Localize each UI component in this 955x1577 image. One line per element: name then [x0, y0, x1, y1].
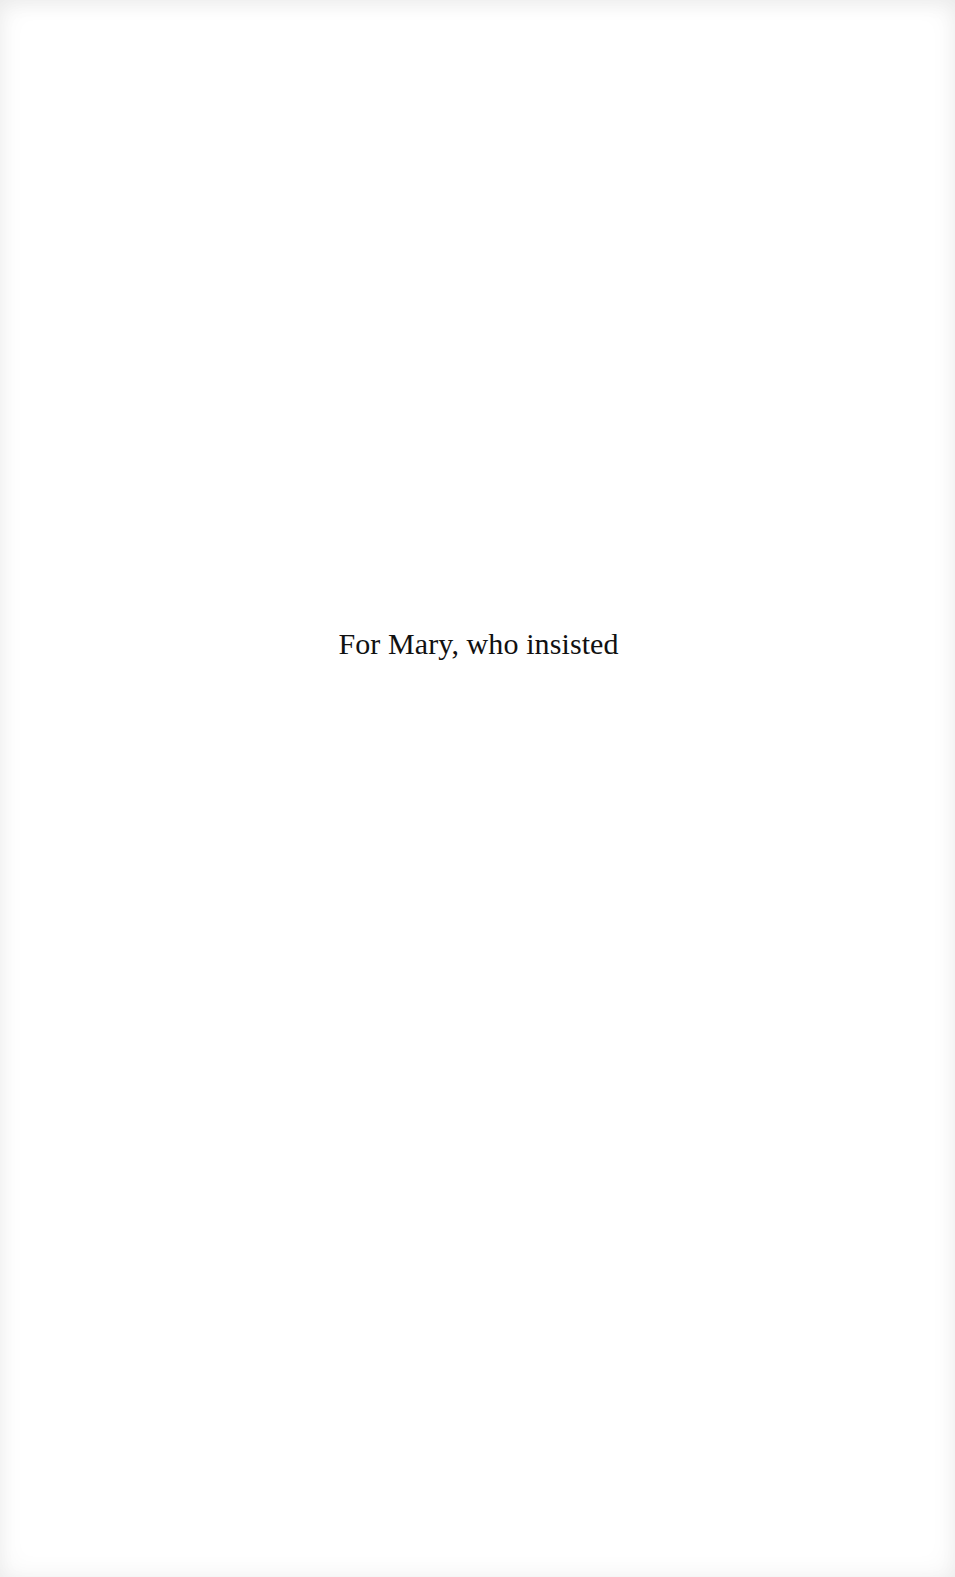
book-page: For Mary, who insisted: [0, 0, 955, 1577]
dedication-text: For Mary, who insisted: [0, 624, 955, 664]
